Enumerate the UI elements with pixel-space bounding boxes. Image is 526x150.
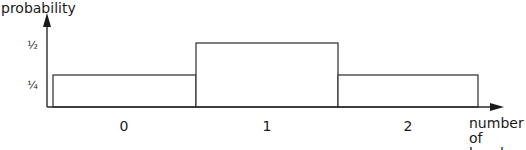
x-axis-label-line1: number bbox=[469, 116, 526, 131]
x-tick-1: 1 bbox=[252, 118, 282, 134]
x-axis-label: number of heads bbox=[469, 116, 526, 150]
x-tick-0: 0 bbox=[109, 118, 139, 134]
y-axis-label: probability bbox=[1, 1, 76, 16]
bars-group bbox=[53, 43, 478, 107]
y-tick-half: ½ bbox=[22, 39, 38, 52]
x-axis-arrow-icon bbox=[490, 103, 504, 111]
bar-0 bbox=[53, 75, 196, 107]
y-tick-quarter: ¼ bbox=[22, 79, 38, 92]
bar-1 bbox=[196, 43, 338, 107]
x-tick-2: 2 bbox=[393, 118, 423, 134]
x-axis-label-line2: of heads bbox=[469, 131, 526, 150]
bar-2 bbox=[338, 75, 478, 107]
